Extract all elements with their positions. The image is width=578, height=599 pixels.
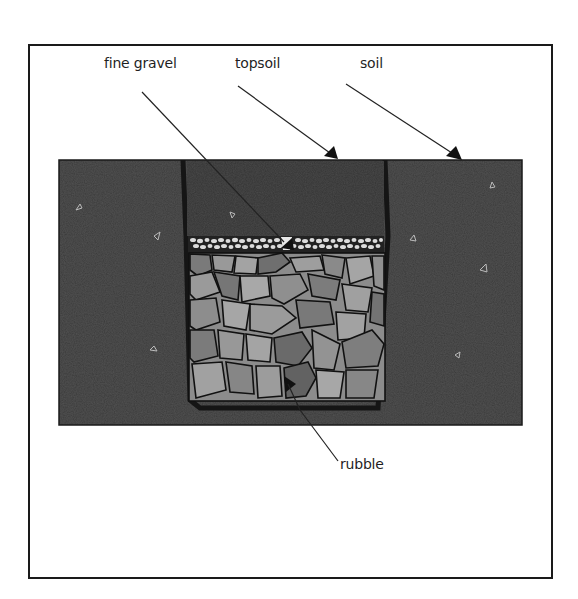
label-rubble: rubble xyxy=(340,456,384,472)
label-soil: soil xyxy=(360,55,383,71)
pointer-topsoil xyxy=(238,86,338,159)
topsoil-layer xyxy=(187,161,384,236)
pointer-soil xyxy=(346,84,462,160)
label-topsoil: topsoil xyxy=(235,55,280,71)
label-fine-gravel: fine gravel xyxy=(104,55,177,71)
trench-cross-section xyxy=(0,0,578,599)
